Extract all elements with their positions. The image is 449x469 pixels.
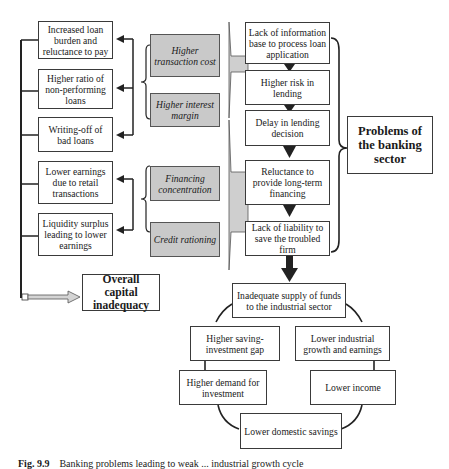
factor-interest-margin: Higher interest margin (150, 93, 220, 127)
effect-text: Liquidity surplus leading to lower earni… (41, 218, 110, 251)
effect-text: Writing-off of bad loans (41, 124, 110, 146)
cycle-lower-income: Lower income (310, 370, 396, 405)
factor-financing-concentration: Financing concentration (150, 166, 220, 201)
chain-lack-liability: Lack of liability to save the troubled f… (245, 221, 330, 256)
effect-text: Lower earnings due to retail transaction… (41, 166, 110, 199)
chain-lack-info: Lack of information base to process loan… (245, 22, 330, 64)
factor-credit-rationing: Credit rationing (150, 222, 220, 257)
chain-delay: Delay in lending decision (245, 110, 330, 146)
cycle-text: Higher saving-investment gap (193, 333, 277, 355)
chain-text: Delay in lending decision (248, 117, 327, 139)
cycle-industrial-growth: Lower industrial growth and earnings (295, 326, 390, 361)
factor-text: Financing concentration (153, 173, 217, 195)
effect-lower-earnings: Lower earnings due to retail transaction… (38, 161, 113, 204)
factor-text: Higher interest margin (153, 99, 217, 121)
caption-text: Banking problems leading to weak ... ind… (59, 458, 303, 469)
chain-text: Reluctance to provide long-term financin… (248, 166, 327, 199)
cycle-domestic-savings: Lower domestic savings (240, 413, 342, 449)
cycle-text: Lower income (325, 382, 381, 393)
chain-higher-risk: Higher risk in lending (245, 70, 330, 105)
cycle-saving-gap: Higher saving-investment gap (190, 326, 280, 361)
cycle-text: Higher demand for investment (182, 377, 264, 399)
figure-caption: Fig. 9.9Banking problems leading to weak… (18, 458, 304, 469)
capital-inadequacy-box: Overall capital inadequacy (82, 274, 160, 311)
factor-text: Credit rationing (154, 234, 216, 245)
capital-inadequacy-text: Overall capital inadequacy (85, 273, 157, 312)
effect-bad-loans: Writing-off of bad loans (38, 117, 113, 152)
chain-text: Higher risk in lending (248, 77, 327, 99)
chain-reluctance: Reluctance to provide long-term financin… (245, 160, 330, 205)
cycle-demand-investment: Higher demand for investment (179, 370, 267, 405)
problems-label-text: Problems of the banking sector (350, 124, 430, 166)
cycle-text: Lower industrial growth and earnings (298, 333, 387, 355)
effect-text: Higher ratio of non-performing loans (41, 73, 110, 106)
factor-text: Higher transaction cost (153, 45, 217, 67)
factor-transaction-cost: Higher transaction cost (150, 34, 220, 77)
effect-liquidity-surplus: Liquidity surplus leading to lower earni… (38, 213, 113, 256)
effect-text: Increased loan burden and reluctance to … (41, 24, 110, 57)
problems-banking-sector-box: Problems of the banking sector (347, 116, 433, 174)
cycle-inadequate-supply: Inadequate supply of funds to the indust… (232, 283, 346, 318)
effect-npl-ratio: Higher ratio of non-performing loans (38, 69, 113, 109)
chain-text: Lack of information base to process loan… (248, 27, 327, 60)
cycle-text: Inadequate supply of funds to the indust… (235, 290, 343, 312)
cycle-text: Lower domestic savings (244, 426, 337, 437)
caption-label: Fig. 9.9 (18, 458, 49, 469)
effect-loan-burden: Increased loan burden and reluctance to … (38, 21, 113, 59)
chain-text: Lack of liability to save the troubled f… (248, 222, 327, 255)
